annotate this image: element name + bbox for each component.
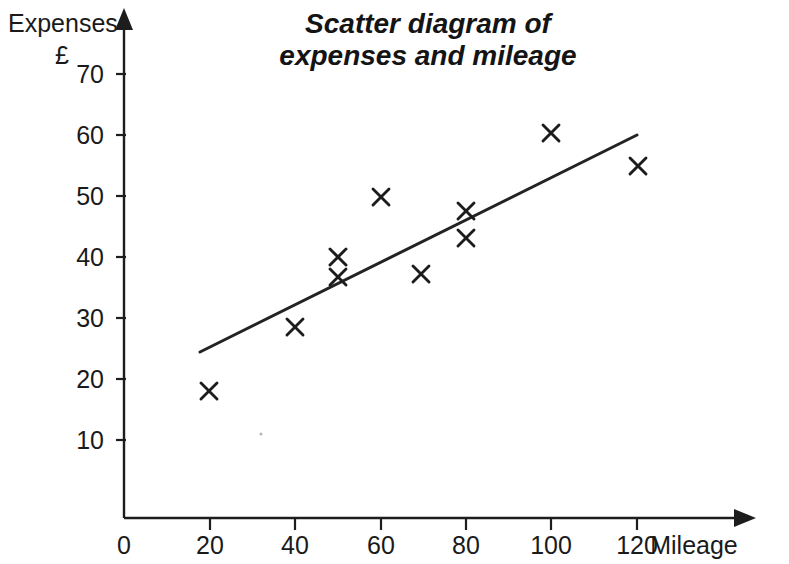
scan-artifact xyxy=(259,432,262,435)
x-tick-label-20: 20 xyxy=(196,531,224,559)
y-tick-label-50: 50 xyxy=(76,182,104,210)
scatter-chart: 70 60 50 40 30 20 10 0 20 40 60 80 100 1… xyxy=(0,0,789,564)
data-point-marker xyxy=(373,189,389,205)
y-tick-label-40: 40 xyxy=(76,243,104,271)
data-point-marker xyxy=(201,383,217,399)
y-axis xyxy=(115,8,133,518)
data-point-marker xyxy=(330,249,346,265)
x-axis-title: Mileage xyxy=(650,531,738,559)
x-axis-ticks xyxy=(210,518,637,530)
trend-line xyxy=(200,135,637,352)
x-tick-label-40: 40 xyxy=(281,531,309,559)
data-point-marker xyxy=(287,319,303,335)
data-point-marker xyxy=(630,158,646,174)
y-tick-label-10: 10 xyxy=(76,426,104,454)
chart-canvas: 70 60 50 40 30 20 10 0 20 40 60 80 100 1… xyxy=(0,0,789,564)
x-tick-label-60: 60 xyxy=(367,531,395,559)
y-axis-title-line1: Expenses xyxy=(8,9,118,37)
y-tick-label-30: 30 xyxy=(76,304,104,332)
x-axis xyxy=(124,509,756,527)
data-point-marker xyxy=(413,266,429,282)
data-points xyxy=(201,125,646,399)
data-point-marker xyxy=(543,125,559,141)
y-tick-label-60: 60 xyxy=(76,121,104,149)
y-tick-label-20: 20 xyxy=(76,365,104,393)
x-tick-label-0: 0 xyxy=(117,531,131,559)
x-tick-label-100: 100 xyxy=(530,531,572,559)
x-axis-arrow-icon xyxy=(734,509,756,527)
chart-title-line2: expenses and mileage xyxy=(279,40,576,71)
y-axis-title-line2: £ xyxy=(55,41,69,69)
chart-title-line1: Scatter diagram of xyxy=(305,8,554,39)
x-tick-label-80: 80 xyxy=(452,531,480,559)
data-point-marker xyxy=(458,230,474,246)
data-point-marker xyxy=(458,203,474,219)
y-tick-label-70: 70 xyxy=(76,60,104,88)
